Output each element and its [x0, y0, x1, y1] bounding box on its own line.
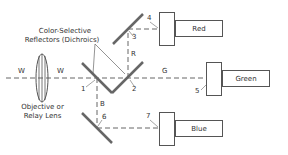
optical-diagram: Red Green Blue Color-Selective Reflector…: [0, 0, 288, 155]
green-detector: [206, 62, 222, 96]
w-right-label: W: [57, 68, 64, 75]
reflectors-label-line2: Reflectors (Dichroics): [22, 37, 102, 44]
reflectors-label-line1: Color-Selective: [30, 28, 100, 35]
blue-ray-label: B: [100, 101, 105, 108]
blue-channel-box: Blue: [175, 120, 223, 137]
leader-line-2: [95, 44, 125, 74]
marker-2: 2: [132, 86, 136, 93]
red-detector: [159, 12, 175, 46]
blue-detector: [159, 112, 175, 146]
w-left-label: W: [18, 68, 25, 75]
leader-line-1: [93, 44, 95, 74]
lens-label-line1: Objective or: [15, 104, 70, 111]
green-ray-label: G: [162, 68, 167, 75]
marker-5: 5: [195, 88, 199, 95]
marker-3: 3: [132, 34, 136, 41]
marker-4: 4: [147, 15, 151, 22]
marker-6: 6: [102, 114, 106, 121]
red-ray-label: R: [131, 51, 136, 58]
marker-7: 7: [146, 113, 150, 120]
red-channel-box: Red: [175, 20, 223, 37]
lens-label-line2: Relay Lens: [15, 113, 70, 120]
marker-1: 1: [81, 86, 85, 93]
green-channel-box: Green: [222, 70, 270, 87]
